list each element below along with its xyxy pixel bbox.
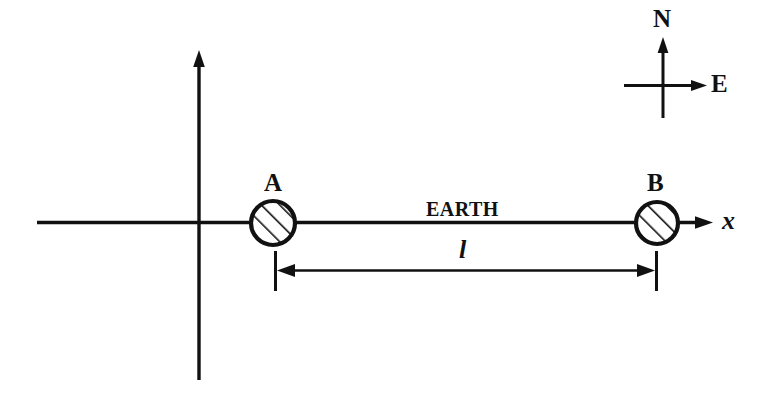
y-axis — [193, 50, 205, 380]
compass-north-arrowhead — [658, 37, 669, 53]
y-axis-arrowhead — [193, 50, 205, 67]
x-axis — [37, 216, 713, 229]
compass-east-label: E — [711, 71, 728, 96]
physics-diagram-canvas: A B EARTH l x N E — [0, 0, 764, 404]
dimension-arrowhead-left — [277, 264, 295, 277]
body-b-circle — [636, 202, 678, 244]
x-axis-label: x — [722, 208, 735, 234]
body-a-circle — [251, 201, 295, 245]
compass-rose — [624, 37, 707, 118]
body-a-label: A — [264, 170, 282, 195]
diagram-vector-layer — [0, 0, 764, 404]
x-axis-arrowhead — [695, 216, 713, 229]
body-b-label: B — [647, 170, 664, 195]
earth-medium-label: EARTH — [426, 199, 499, 219]
distance-label: l — [459, 237, 466, 263]
dimension-arrowhead-right — [637, 264, 655, 277]
compass-north-label: N — [653, 6, 671, 31]
compass-east-arrowhead — [691, 80, 707, 91]
